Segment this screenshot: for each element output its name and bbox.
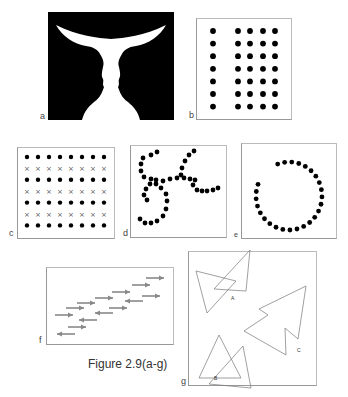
dot-cross-grid-c: ×××××××××××××××××××××××× [18, 148, 114, 238]
figure-caption: Figure 2.9(a-g) [88, 357, 167, 371]
svg-text:×: × [35, 188, 41, 196]
svg-text:×: × [46, 211, 52, 219]
panel-f [46, 267, 174, 345]
svg-text:×: × [57, 165, 63, 173]
rubin-vase-figure [48, 12, 174, 120]
svg-text:×: × [68, 188, 74, 196]
panel-c-label: c [9, 229, 14, 238]
svg-text:×: × [90, 165, 96, 173]
dotted-curves-d [131, 146, 226, 237]
label-C: C [297, 347, 301, 353]
svg-text:×: × [79, 211, 85, 219]
panel-f-label: f [39, 336, 42, 345]
svg-text:×: × [35, 165, 41, 173]
svg-text:×: × [24, 211, 30, 219]
svg-text:×: × [90, 211, 96, 219]
svg-text:×: × [46, 165, 52, 173]
svg-text:×: × [68, 211, 74, 219]
svg-text:×: × [57, 211, 63, 219]
svg-text:×: × [35, 211, 41, 219]
panel-a [48, 12, 174, 120]
svg-text:×: × [79, 165, 85, 173]
svg-text:×: × [24, 165, 30, 173]
svg-text:×: × [57, 188, 63, 196]
panel-g: A B C [188, 251, 317, 386]
dot-grid-b [197, 19, 291, 119]
panel-e [241, 143, 337, 239]
svg-text:×: × [101, 211, 107, 219]
svg-text:×: × [24, 188, 30, 196]
svg-text:×: × [101, 188, 107, 196]
panel-g-label: g [181, 377, 186, 386]
svg-text:×: × [90, 188, 96, 196]
svg-text:×: × [68, 165, 74, 173]
panel-d [130, 145, 227, 238]
panel-b-label: b [189, 111, 194, 120]
panel-b [196, 18, 292, 120]
svg-text:×: × [46, 188, 52, 196]
svg-text:×: × [101, 165, 107, 173]
triangles-g: A B C [189, 252, 316, 385]
panel-c: ×××××××××××××××××××××××× [17, 147, 115, 239]
panel-a-label: a [40, 112, 45, 121]
dotted-circle-e [242, 144, 336, 238]
svg-text:×: × [79, 188, 85, 196]
label-A: A [231, 295, 235, 301]
panel-e-label: e [234, 231, 238, 238]
panel-d-label: d [123, 229, 128, 238]
arrows-f [47, 268, 173, 344]
